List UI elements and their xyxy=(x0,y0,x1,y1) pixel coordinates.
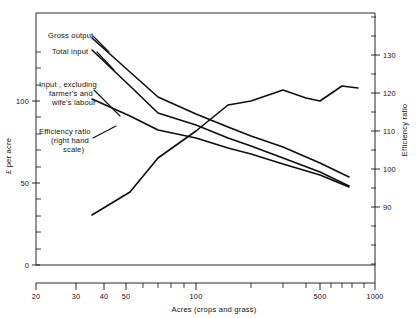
right-tick-label-120: 120 xyxy=(383,89,396,98)
annotation-efficiency-line3: scale) xyxy=(63,145,84,154)
annotation-input-excluding-line2: farmer's and xyxy=(49,89,93,98)
series-line-total-input xyxy=(92,50,349,186)
annotation-total-input: Total input xyxy=(52,47,89,56)
annotation-efficiency-line2: (right hand xyxy=(51,136,89,145)
x-tick-label-500: 500 xyxy=(314,292,327,301)
annotation-efficiency-ratio: Efficiency ratio (right hand scale) xyxy=(39,127,91,154)
x-tick-label-50: 50 xyxy=(122,292,131,301)
annotation-input-excluding-labour: Input , excluding farmer's and wife's la… xyxy=(39,80,97,107)
annotation-efficiency-line1: Efficiency ratio xyxy=(39,127,91,136)
leader-efficiency-ratio xyxy=(93,126,116,138)
series-line-gross-output xyxy=(92,38,349,177)
leader-input-excluding xyxy=(94,90,120,116)
x-tick-label-30: 30 xyxy=(72,292,81,301)
y-axis-title-left: £ per acre xyxy=(4,138,13,174)
right-tick-label-130: 130 xyxy=(383,51,396,60)
x-tick-label-20: 20 xyxy=(32,292,41,301)
y-axis-title-right: Efficiency ratio xyxy=(400,104,409,156)
left-tick-label-100: 100 xyxy=(16,97,29,106)
left-tick-label-50: 50 xyxy=(20,179,29,188)
leader-gross-output xyxy=(93,36,109,52)
left-tick-label-0: 0 xyxy=(25,261,29,270)
chart-figure: 100 50 0 £ per acre 130 120 110 100 90 E… xyxy=(0,0,416,318)
right-tick-label-90: 90 xyxy=(383,203,392,212)
right-tick-label-100: 100 xyxy=(383,165,396,174)
x-tick-label-1000: 1000 xyxy=(366,292,383,301)
right-axis-ticks xyxy=(371,17,380,264)
line-chart: 100 50 0 £ per acre 130 120 110 100 90 E… xyxy=(0,0,416,318)
annotation-input-excluding-line3: wife's labour xyxy=(51,98,96,107)
series-group xyxy=(92,38,358,215)
series-line-efficiency-ratio xyxy=(92,86,358,215)
annotation-gross-output: Gross output xyxy=(48,31,94,40)
x-tick-label-40: 40 xyxy=(100,292,109,301)
bottom-axis-ticks xyxy=(36,283,375,290)
right-tick-label-110: 110 xyxy=(383,127,395,136)
x-tick-label-100: 100 xyxy=(190,292,203,301)
series-line-input-excluding-labour xyxy=(92,99,349,187)
annotation-input-excluding-line1: Input , excluding xyxy=(39,80,97,89)
x-axis-title: Acres (crops and grass) xyxy=(171,305,256,314)
